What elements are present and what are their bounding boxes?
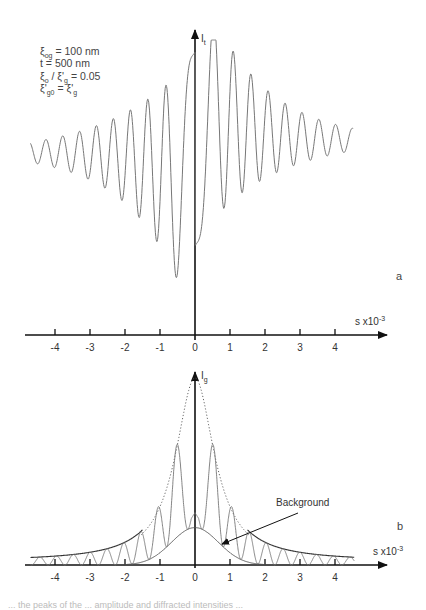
parameter-xi-g0: ξ'g0 = ξ'g (40, 82, 77, 97)
figure-caption-fragment: ... the peaks of the ... amplitude and d… (8, 600, 243, 610)
panel-a-tick-label: -1 (156, 342, 165, 353)
panel-a-x-axis-label: s x10-3 (355, 315, 385, 327)
panel-b: -4-3-2-101234 Ig s x10-3 b Background (25, 370, 403, 583)
panel-b-tick-label: -1 (156, 572, 165, 583)
panel-a-tick-label: -2 (121, 342, 130, 353)
parameter-thickness: t = 500 nm (40, 57, 90, 69)
panel-b-tick-label: 0 (192, 572, 198, 583)
panel-b-tick-label: -4 (51, 572, 60, 583)
panel-b-y-axis-label: Ig (201, 370, 208, 384)
panel-b-tick-label: 2 (262, 572, 268, 583)
panel-a-tick-label: 4 (332, 342, 338, 353)
panel-b-x-axis-label: s x10-3 (373, 545, 403, 557)
panel-b-curves (31, 378, 355, 565)
panel-b-tick-label: -3 (86, 572, 95, 583)
panel-b-tick-label: 1 (227, 572, 233, 583)
background-annotation-label: Background (276, 497, 329, 508)
parameter-block: ξog = 100 nm t = 500 nm ξo / ξ'g = 0.05 … (40, 45, 101, 97)
panel-a-y-axis-label: It (201, 33, 206, 46)
panel-a-tick-label: 0 (192, 342, 198, 353)
panel-a-label: a (396, 270, 403, 282)
panel-b-tick-label: 4 (332, 572, 338, 583)
panel-a-tick-label: 1 (227, 342, 233, 353)
panel-b-label: b (397, 520, 403, 532)
panel-a-tick-label: 3 (297, 342, 303, 353)
panel-a-tick-label: -4 (51, 342, 60, 353)
panel-b-tick-label: -2 (121, 572, 130, 583)
panel-a-tick-label: 2 (262, 342, 268, 353)
upper-envelope-left (31, 530, 143, 558)
panel-b-tick-label: 3 (297, 572, 303, 583)
figure-canvas: ξog = 100 nm t = 500 nm ξo / ξ'g = 0.05 … (0, 0, 426, 610)
panel-a-tick-label: -3 (86, 342, 95, 353)
